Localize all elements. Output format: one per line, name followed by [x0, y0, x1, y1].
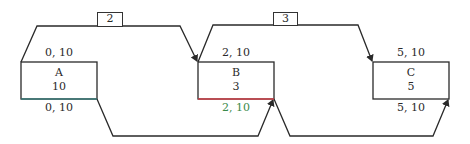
node-b-name: B [198, 66, 274, 80]
node-c-bottom-label: 5, 10 [373, 102, 449, 114]
lag-label-a-b: 2 [97, 12, 123, 27]
node-a-name: A [21, 66, 97, 80]
node-a-duration: 10 [21, 80, 97, 94]
lag-label-b-c: 3 [273, 12, 298, 26]
node-c-duration: 5 [373, 80, 449, 94]
node-b-duration: 3 [198, 80, 274, 94]
node-a-top-label: 0, 10 [21, 47, 97, 59]
node-c-name: C [373, 66, 449, 80]
node-a-bottom-label: 0, 10 [21, 102, 97, 114]
node-c-top-label: 5, 10 [373, 47, 449, 59]
node-b-top-label: 2, 10 [198, 47, 274, 59]
node-b-bottom-label: 2, 10 [198, 102, 274, 114]
